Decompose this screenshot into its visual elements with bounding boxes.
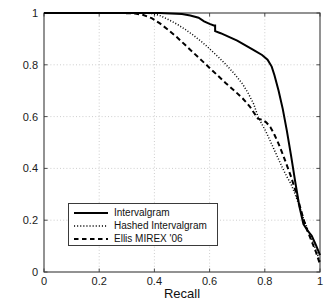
legend-item-ellis-mirex: Ellis MIREX '06 [69, 232, 217, 245]
legend-label: Hashed Intervalgram [114, 219, 207, 232]
x-tick-label: 1 [317, 275, 323, 287]
legend-label: Intervalgram [114, 206, 170, 219]
y-tick-label: 0.8 [10, 59, 38, 71]
x-tick-label: 0.4 [147, 275, 162, 287]
legend-sample-dotted-icon [73, 221, 109, 231]
chart-legend: Intervalgram Hashed Intervalgram Ellis M… [68, 203, 218, 246]
x-tick-label: 0 [41, 275, 47, 287]
y-tick-label: 0.4 [10, 162, 38, 174]
precision-recall-chart: 1 0.8 0.6 0.4 0.2 0 0 0.2 0.4 0.6 0.8 1 … [0, 0, 334, 308]
x-tick-label: 0.6 [202, 275, 217, 287]
plot-canvas [0, 0, 334, 308]
y-tick-label: 0 [10, 266, 38, 278]
y-tick-label: 0.6 [10, 111, 38, 123]
legend-sample-dashed-icon [73, 234, 109, 244]
legend-item-hashed-intervalgram: Hashed Intervalgram [69, 219, 217, 232]
legend-label: Ellis MIREX '06 [114, 232, 183, 245]
x-tick-label: 0.2 [92, 275, 107, 287]
x-axis-label: Recall [164, 286, 200, 301]
x-tick-label: 0.8 [257, 275, 272, 287]
legend-sample-solid-icon [73, 208, 109, 218]
y-tick-label: 0.2 [10, 214, 38, 226]
y-tick-label: 1 [10, 7, 38, 19]
legend-item-intervalgram: Intervalgram [69, 206, 217, 219]
